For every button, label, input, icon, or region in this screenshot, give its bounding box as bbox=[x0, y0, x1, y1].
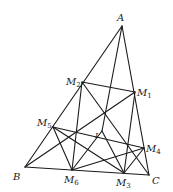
label-m6: M6 bbox=[63, 174, 79, 187]
segment-m4-m6 bbox=[72, 148, 144, 170]
label-m3: M3 bbox=[115, 177, 131, 190]
segment-i-m3 bbox=[102, 131, 124, 173]
segment-a-i bbox=[102, 26, 122, 131]
label-m4: M4 bbox=[145, 143, 161, 156]
label-m1: M1 bbox=[136, 87, 152, 100]
label-m2: M2 bbox=[65, 76, 81, 89]
segment-m2-m6 bbox=[72, 82, 82, 170]
triangle-diagram: A B C M1 M2 M3 M4 M5 M6 I bbox=[0, 0, 173, 192]
label-m5: M5 bbox=[36, 117, 52, 130]
segment-m2-m1 bbox=[82, 82, 135, 92]
label-b: B bbox=[12, 171, 20, 182]
label-a: A bbox=[116, 12, 124, 23]
side-bc bbox=[25, 167, 149, 175]
side-ac bbox=[122, 26, 149, 175]
side-ab bbox=[25, 26, 122, 167]
label-c: C bbox=[152, 175, 160, 186]
